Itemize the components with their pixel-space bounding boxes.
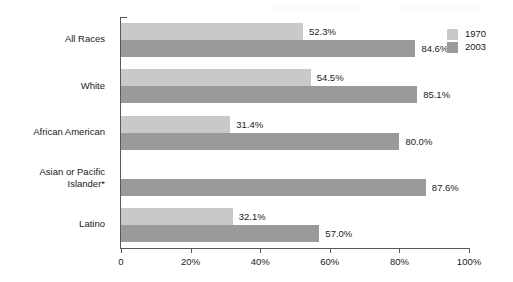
x-axis-tick-label: 20% (181, 256, 200, 267)
y-axis-top-tick (120, 17, 127, 18)
bar-value-label: 57.0% (325, 225, 352, 242)
x-axis-tick (191, 248, 192, 253)
x-axis-tick-label: 100% (457, 256, 481, 267)
bar-2003-african-american (121, 133, 399, 150)
bar-value-label: 85.1% (423, 86, 450, 103)
category-label: White (81, 80, 105, 92)
legend: 19702003 (447, 28, 509, 56)
category-axis-labels: All RacesWhiteAfrican AmericanAsian or P… (0, 17, 113, 248)
bar-value-label: 80.0% (405, 133, 432, 150)
category-label-line: Asian or Pacific (40, 166, 105, 178)
bar-value-label: 31.4% (236, 116, 263, 133)
scan-artifact (398, 4, 480, 13)
x-axis-tick-label: 40% (251, 256, 270, 267)
x-axis-tick (260, 248, 261, 253)
x-axis-tick-label: 60% (320, 256, 339, 267)
bar-1970-latino (121, 208, 233, 225)
bar-2003-asian-or-pacific-islander (121, 179, 426, 196)
bar-2003-all-races (121, 40, 415, 57)
category-label: African American (33, 126, 105, 138)
category-label: Asian or PacificIslander* (40, 166, 105, 189)
category-label: Latino (79, 218, 105, 230)
bar-value-label: 87.6% (432, 179, 459, 196)
legend-swatch-icon (447, 42, 458, 53)
bar-1970-african-american (121, 116, 230, 133)
scan-artifact (270, 4, 362, 13)
category-label-line: All Races (65, 33, 105, 45)
x-axis-tick-label: 0 (118, 256, 123, 267)
category-label-line: Islander* (40, 178, 105, 190)
bar-2003-white (121, 86, 417, 103)
x-axis-tick-label: 80% (390, 256, 409, 267)
bar-1970-white (121, 69, 311, 86)
category-label-line: White (81, 80, 105, 92)
x-axis-tick (399, 248, 400, 253)
x-axis-tick (469, 248, 470, 253)
legend-label: 1970 (465, 28, 486, 40)
legend-label: 2003 (465, 41, 486, 53)
bar-value-label: 54.5% (317, 69, 344, 86)
bar-chart: All RacesWhiteAfrican AmericanAsian or P… (0, 0, 513, 282)
x-axis-tick (121, 248, 122, 253)
category-label-line: African American (33, 126, 105, 138)
category-label-line: Latino (79, 218, 105, 230)
plot-area: 52.3%84.6%54.5%85.1%31.4%80.0%87.6%32.1%… (121, 17, 469, 248)
bar-value-label: 32.1% (239, 208, 266, 225)
bar-value-label: 52.3% (309, 23, 336, 40)
category-label: All Races (65, 33, 105, 45)
legend-swatch-icon (447, 29, 458, 40)
bar-value-label: 84.6% (421, 40, 448, 57)
bar-1970-all-races (121, 23, 303, 40)
bar-2003-latino (121, 225, 319, 242)
x-axis-tick (330, 248, 331, 253)
x-axis-line (120, 248, 470, 249)
